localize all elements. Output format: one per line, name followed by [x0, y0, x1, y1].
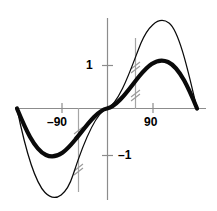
x-tick-label-pos90: 90: [144, 116, 157, 128]
sine-wave-comparison-figure: –90 90 1 –1: [0, 0, 217, 211]
x-tick-label-neg90: –90: [47, 116, 67, 128]
plot-canvas: [0, 0, 217, 211]
y-tick-label-one: 1: [86, 59, 93, 71]
y-tick-label-negone: –1: [118, 149, 131, 161]
